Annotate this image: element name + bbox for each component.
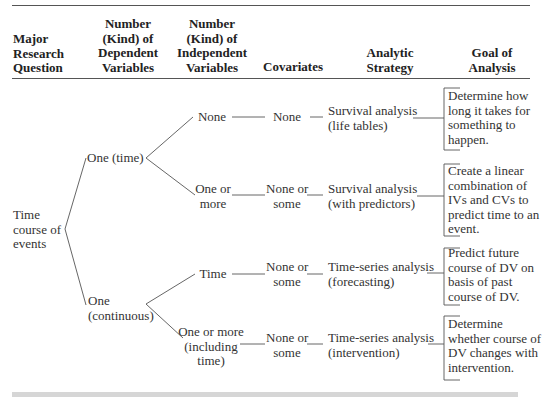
strategy-survival-with-predictors: Survival analysis (with predictors) (328, 182, 417, 211)
strategy-time-series-forecasting: Time-series analysis (forecasting) (328, 260, 434, 289)
dv-one-continuous: One (continuous) (88, 294, 154, 323)
dv-one-time: One (time) (87, 151, 144, 166)
covariates-none-or-some-3: None or some (266, 331, 308, 360)
strategy-time-series-intervention: Time-series analysis (intervention) (328, 331, 434, 360)
goal-determine-whether-course-changes: Determine whether course of DV changes w… (448, 317, 541, 375)
iv-none: None (194, 110, 230, 125)
covariates-none-or-some-1: None or some (266, 182, 308, 211)
iv-time: Time (196, 267, 230, 282)
iv-one-or-more-including-time: One or more (including time) (178, 325, 244, 369)
bottom-gray-bar (12, 392, 518, 397)
iv-one-or-more: One or more (193, 182, 233, 211)
goal-determine-how-long: Determine how long it takes for somethin… (448, 89, 530, 147)
strategy-survival-life-tables: Survival analysis (life tables) (328, 104, 417, 133)
covariates-none: None (267, 110, 307, 125)
question-time-course-of-events: Time course of events (13, 208, 61, 252)
covariates-none-or-some-2: None or some (266, 260, 308, 289)
goal-predict-future-course: Predict future course of DV on basis of … (448, 246, 534, 304)
goal-create-linear-combination: Create a linear combination of IVs and C… (448, 164, 539, 237)
